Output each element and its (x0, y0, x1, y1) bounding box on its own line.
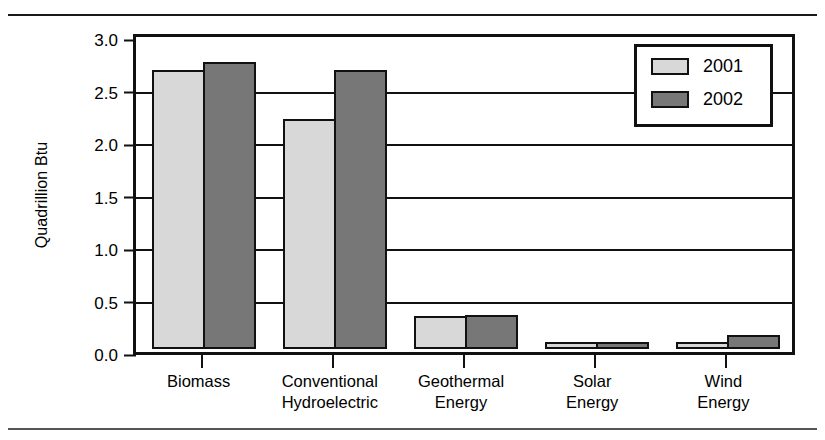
y-axis-tick-mark (124, 249, 136, 251)
legend-label-2002: 2002 (703, 90, 743, 108)
y-axis-tick: 1.0 (94, 242, 136, 259)
bottom-divider-rule (8, 428, 817, 430)
x-axis-tick-mark (725, 355, 727, 368)
chart-figure: Quadrillion Btu 3.02.52.01.51.00.50.0 Bi… (0, 0, 825, 440)
top-divider-rule (8, 14, 817, 16)
x-axis-label-line: Energy (643, 392, 803, 413)
bar-2001 (545, 342, 598, 349)
bar-2002 (203, 62, 256, 349)
bar-group (139, 40, 270, 349)
x-axis-label-line: Wind (643, 371, 803, 392)
bar-group (270, 40, 401, 349)
bar-2002 (334, 70, 387, 349)
bar-group (401, 40, 532, 349)
bar-2001 (414, 316, 467, 349)
y-axis-tick-mark (124, 39, 136, 41)
bar-2001 (676, 342, 729, 349)
y-axis-tick-label: 1.0 (94, 242, 124, 259)
y-axis-tick: 3.0 (94, 32, 136, 49)
x-axis-tick-mark (594, 355, 596, 368)
y-axis-tick: 0.5 (94, 294, 136, 311)
y-axis-tick-mark (124, 197, 136, 199)
y-axis-tick-mark (124, 302, 136, 304)
y-axis-tick-mark (124, 354, 136, 356)
y-axis-tick-mark (124, 92, 136, 94)
bar-2002 (727, 335, 780, 349)
y-axis-tick: 2.0 (94, 137, 136, 154)
y-axis-tick: 2.5 (94, 84, 136, 101)
bar-2002 (596, 342, 649, 349)
x-axis-label: WindEnergy (643, 371, 803, 413)
y-axis-tick-label: 2.5 (94, 84, 124, 101)
y-axis-tick-mark (124, 144, 136, 146)
legend-label-2001: 2001 (703, 57, 743, 75)
legend-item-2002: 2002 (651, 90, 743, 108)
y-axis-tick-label: 2.0 (94, 137, 124, 154)
legend-item-2001: 2001 (651, 57, 743, 75)
chart-legend: 2001 2002 (634, 44, 773, 127)
x-axis-labels-group: BiomassConventionalHydroelectricGeotherm… (133, 371, 795, 429)
legend-swatch-2001 (651, 58, 689, 75)
bar-2001 (283, 119, 336, 349)
legend-swatch-2002 (651, 91, 689, 108)
y-axis-tick: 1.5 (94, 189, 136, 206)
y-axis-title: Quadrillion Btu (33, 65, 51, 325)
y-axis-tick-label: 0.5 (94, 294, 124, 311)
y-axis-tick: 0.0 (94, 347, 136, 364)
x-axis-tick-mark (201, 355, 203, 368)
x-axis-tick-mark (332, 355, 334, 368)
y-axis-tick-label: 0.0 (94, 347, 124, 364)
y-axis-tick-label: 1.5 (94, 189, 124, 206)
bar-2001 (152, 70, 205, 349)
bar-2002 (465, 315, 518, 349)
x-axis-tick-mark (463, 355, 465, 368)
y-axis-tick-label: 3.0 (94, 32, 124, 49)
